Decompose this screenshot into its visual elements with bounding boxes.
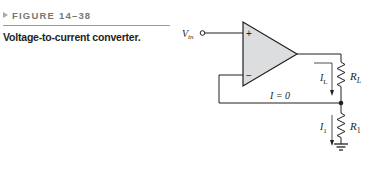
load-resistor-label: RL [349,70,362,85]
input-voltage-label: Vin [182,28,194,41]
load-resistor [337,62,345,87]
load-current-arrowhead-icon [330,90,334,96]
resistor-r1-label: R1 [349,120,361,135]
opamp-minus-sign: − [246,70,252,81]
junction-node [339,101,344,106]
resistor-r1 [337,113,345,138]
input-terminal [200,31,205,36]
r1-current-arrowhead-icon [330,140,334,146]
load-current-label: IL [319,72,328,86]
r1-current-label: I1 [319,121,327,135]
opamp-plus-sign: + [246,28,252,39]
circuit-diagram: + − Vin RL IL I = 0 R1 I1 [0,0,378,175]
feedback-current-label: I = 0 [269,90,290,101]
